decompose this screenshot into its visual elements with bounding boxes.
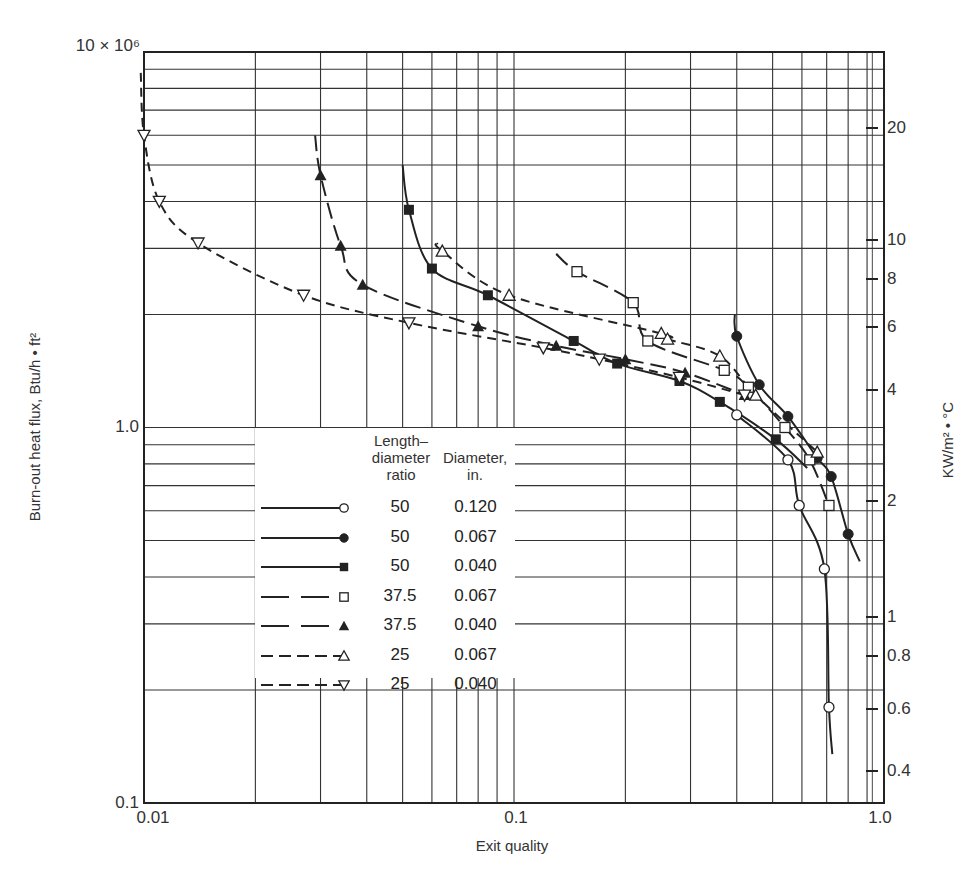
open-inverted-triangle-marker [403, 318, 415, 329]
open-circle-marker [732, 410, 742, 420]
open-circle-marker [794, 500, 804, 510]
x-tick-label: 1.0 [868, 808, 892, 828]
legend-diameter: 0.067 [438, 586, 513, 606]
legend-header-text: Length– [367, 432, 435, 449]
filled-square-legend-icon [259, 557, 369, 577]
legend-header-text: diameter [367, 449, 435, 466]
series-curve [737, 415, 833, 754]
legend-ratio: 37.5 [370, 615, 430, 635]
open-triangle-marker [503, 289, 515, 300]
open-circle-marker [819, 564, 829, 574]
legend-diameter: 0.040 [438, 674, 513, 694]
legend-header-text: in. [433, 466, 517, 483]
y-axis-label-left: Burn-out heat flux, Btu/h • ft² [26, 333, 43, 522]
filled-square-marker [771, 434, 781, 444]
open-square-legend-icon [259, 587, 369, 607]
filled-square-marker [715, 397, 725, 407]
legend-ratio: 50 [370, 497, 430, 517]
y-tick-label-right: 10 [887, 230, 906, 250]
legend-ratio: 50 [370, 556, 430, 576]
open-square-marker [572, 267, 582, 277]
legend-diameter: 0.040 [438, 615, 513, 635]
legend-diameter: 0.040 [438, 556, 513, 576]
open-circle-marker [783, 455, 793, 465]
filled-square-marker [483, 290, 493, 300]
legend-ratio: 50 [370, 527, 430, 547]
open-triangle-marker [714, 350, 726, 361]
legend-diameter: 0.067 [438, 645, 513, 665]
legend-row: 500.120 [255, 494, 515, 522]
legend-ratio: 25 [370, 674, 430, 694]
open-inverted-triangle-marker [298, 290, 310, 301]
y-axis-label-right: KW/m² • °C [939, 402, 956, 478]
legend-header-text: ratio [367, 466, 435, 483]
filled-circle-legend-icon [259, 528, 369, 548]
legend-row: 250.067 [255, 642, 515, 670]
y-tick-label-left: 1.0 [115, 417, 139, 437]
y-tick-label-left: 10 × 10⁶ [76, 36, 140, 56]
legend-row: 37.50.040 [255, 612, 515, 640]
filled-circle-marker [732, 331, 742, 341]
y-tick-label-right: 2 [887, 491, 896, 511]
legend-row: 500.067 [255, 524, 515, 552]
filled-square-marker [404, 205, 414, 215]
series-curve [556, 254, 829, 506]
filled-square-marker [427, 264, 437, 274]
legend-row: 37.50.067 [255, 583, 515, 611]
y-tick-label-right: 0.6 [887, 699, 911, 719]
y-tick-label-right: 8 [887, 269, 896, 289]
open-square-marker [628, 298, 638, 308]
legend-header-ratio: Length– diameter ratio [367, 432, 435, 483]
open-inverted-triangle-marker [192, 238, 204, 249]
legend-row: 250.040 [255, 671, 515, 699]
legend-diameter: 0.120 [438, 497, 513, 517]
y-tick-label-right: 0.4 [887, 761, 911, 781]
series-curve [734, 314, 859, 561]
filled-triangle-marker [315, 169, 327, 180]
filled-circle-marker [826, 472, 836, 482]
open-circle-marker [824, 702, 834, 712]
y-tick-label-right: 20 [887, 118, 906, 138]
open-triangle-legend-icon [259, 646, 369, 666]
series-curve [141, 73, 745, 395]
filled-triangle-legend-icon [259, 616, 369, 636]
x-axis-label: Exit quality [476, 837, 549, 854]
filled-circle-marker [843, 529, 853, 539]
legend-row: 500.040 [255, 553, 515, 581]
open-square-marker [719, 365, 729, 375]
filled-circle-marker [783, 411, 793, 421]
y-tick-label-right: 0.8 [887, 646, 911, 666]
x-tick-label: 0.01 [136, 808, 169, 828]
open-inverted-triangle-legend-icon [259, 675, 369, 695]
y-tick-label-left: 0.1 [115, 793, 139, 813]
legend-header-diameter: Diameter, in. [433, 449, 517, 483]
open-square-marker [643, 336, 653, 346]
y-tick-label-right: 1 [887, 607, 896, 627]
y-tick-label-right: 6 [887, 317, 896, 337]
legend-ratio: 25 [370, 645, 430, 665]
legend-header-text: Diameter, [433, 449, 517, 466]
open-inverted-triangle-marker [593, 354, 605, 365]
legend: Length– diameter ratio Diameter, in. 500… [255, 428, 515, 678]
x-tick-label: 0.1 [504, 808, 528, 828]
filled-square-marker [569, 336, 579, 346]
legend-ratio: 37.5 [370, 586, 430, 606]
legend-diameter: 0.067 [438, 527, 513, 547]
y-tick-label-right: 4 [887, 380, 896, 400]
series-curve [436, 243, 818, 452]
open-square-marker [824, 500, 834, 510]
open-circle-legend-icon [259, 498, 369, 518]
filled-triangle-marker [335, 240, 347, 251]
open-square-marker [780, 423, 790, 433]
